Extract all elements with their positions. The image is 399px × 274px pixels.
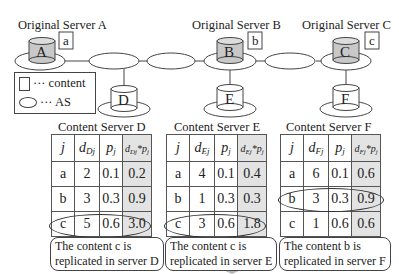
cell-dp: 0.9 [123, 187, 152, 212]
as-ellipse-1 [89, 53, 139, 69]
cell-j: b [167, 187, 190, 212]
cell-dp: 0.6 [352, 212, 381, 237]
table-row: a 6 0.1 0.6 [281, 162, 381, 187]
cell-d: 5 [75, 212, 100, 237]
cell-p: 0.3 [100, 187, 123, 212]
table-row: b 1 0.3 0.3 [167, 187, 267, 212]
server-label-D: D [118, 92, 129, 109]
cell-dp: 0.9 [352, 187, 381, 212]
server-label-A: A [36, 44, 47, 61]
as-ellipse-3 [265, 53, 315, 69]
cell-d: 1 [304, 212, 329, 237]
header-d: dEj [190, 135, 215, 162]
table-row: c 5 0.6 3.0 [52, 212, 152, 237]
content-label-c: c [369, 33, 375, 49]
table-header-row: j dDj pj dDj*pj [52, 135, 152, 162]
cell-j: a [52, 162, 75, 187]
cell-j: a [281, 162, 304, 187]
content-table-E: j dEj pj dEj*pj a 4 0.1 0.4 b 1 0.3 0.3 … [166, 134, 267, 237]
cell-dp: 0.6 [352, 162, 381, 187]
header-d: dFj [304, 135, 329, 162]
as-ellipse-icon [19, 97, 37, 108]
table-title-F: Content Server F [286, 120, 371, 135]
legend-content-label: ··· content [33, 76, 85, 91]
table-row: c 3 0.6 1.8 [167, 212, 267, 237]
cell-p: 0.3 [215, 187, 238, 212]
table-title-D: Content Server D [58, 120, 145, 135]
note-D: The content c is replicated in server D [50, 237, 164, 271]
content-table-F: j dFj pj dFj*pj a 6 0.1 0.6 b 3 0.3 0.9 … [280, 134, 381, 237]
legend-row-content: ··· content [19, 76, 85, 91]
server-label-B: B [224, 44, 234, 61]
server-title-C: Original Server C [302, 18, 391, 33]
cell-dp: 0.2 [123, 162, 152, 187]
cell-d: 3 [75, 187, 100, 212]
cell-d: 3 [304, 187, 329, 212]
legend: ··· content ··· AS [14, 72, 96, 114]
table-title-E: Content Server E [174, 120, 260, 135]
table-header-row: j dEj pj dEj*pj [167, 135, 267, 162]
cell-p: 0.3 [329, 187, 352, 212]
table-row: b 3 0.3 0.9 [52, 187, 152, 212]
cell-dp: 0.4 [238, 162, 267, 187]
content-box-icon [19, 77, 30, 91]
cell-j: b [281, 187, 304, 212]
legend-row-as: ··· AS [19, 95, 71, 110]
table-row: a 4 0.1 0.4 [167, 162, 267, 187]
cell-j: c [281, 212, 304, 237]
as-ellipse-2 [147, 53, 195, 69]
note-E: The content c is replicated in server E [165, 237, 277, 271]
header-dp: dFj*pj [352, 135, 381, 162]
legend-as-label: ··· AS [40, 95, 71, 110]
cell-dp: 1.8 [238, 212, 267, 237]
cell-d: 3 [190, 212, 215, 237]
cell-dp: 3.0 [123, 212, 152, 237]
content-label-b: b [252, 33, 259, 49]
cell-d: 2 [75, 162, 100, 187]
header-p: pj [100, 135, 123, 162]
server-label-F: F [341, 91, 349, 108]
header-d: dDj [75, 135, 100, 162]
cell-p: 0.1 [215, 162, 238, 187]
server-label-C: C [340, 44, 350, 61]
cell-p: 0.6 [215, 212, 238, 237]
cell-j: a [167, 162, 190, 187]
cell-d: 1 [190, 187, 215, 212]
header-p: pj [329, 135, 352, 162]
header-j: j [281, 135, 304, 162]
note-F: The content b is replicated in server F [279, 237, 391, 271]
content-label-a: a [63, 33, 69, 49]
header-p: pj [215, 135, 238, 162]
cell-j: b [52, 187, 75, 212]
cell-d: 6 [304, 162, 329, 187]
cell-j: c [52, 212, 75, 237]
cell-p: 0.6 [100, 212, 123, 237]
table-header-row: j dFj pj dFj*pj [281, 135, 381, 162]
cell-d: 4 [190, 162, 215, 187]
table-row: a 2 0.1 0.2 [52, 162, 152, 187]
header-j: j [52, 135, 75, 162]
server-label-E: E [225, 91, 234, 108]
cell-p: 0.1 [100, 162, 123, 187]
cell-p: 0.1 [329, 162, 352, 187]
server-title-B: Original Server B [192, 18, 281, 33]
server-title-A: Original Server A [18, 18, 107, 33]
cell-p: 0.6 [329, 212, 352, 237]
cell-j: c [167, 212, 190, 237]
content-table-D: j dDj pj dDj*pj a 2 0.1 0.2 b 3 0.3 0.9 … [51, 134, 152, 237]
table-row: c 1 0.6 0.6 [281, 212, 381, 237]
cell-dp: 0.3 [238, 187, 267, 212]
header-j: j [167, 135, 190, 162]
header-dp: dEj*pj [238, 135, 267, 162]
table-row: b 3 0.3 0.9 [281, 187, 381, 212]
header-dp: dDj*pj [123, 135, 152, 162]
